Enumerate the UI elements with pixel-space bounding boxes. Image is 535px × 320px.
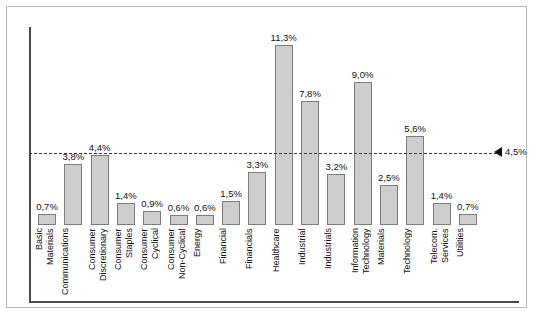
bar-slot: 9,0% [350, 19, 376, 225]
bar-slot: 3,2% [323, 19, 349, 225]
bar-slot: 2,5% [376, 19, 402, 225]
x-axis-label-slot: Utilities [455, 228, 481, 310]
x-axis-label: Financial [218, 228, 244, 310]
bar-slot: 11,3% [271, 19, 297, 225]
x-axis-label: Industrial [297, 228, 323, 310]
x-axis-label: Communications [60, 228, 86, 310]
bar-slot: 5,6% [402, 19, 428, 225]
x-axis-label: Energy [192, 228, 218, 310]
x-axis-label: Utilities [455, 228, 481, 310]
x-axis-label-slot: Consumer Discretionary [87, 228, 113, 310]
x-axis-label-slot: Telecom. Services [429, 228, 455, 310]
x-axis-label-slot: Consumer Staples [113, 228, 139, 310]
x-axis-label-slot: Communications [60, 228, 86, 310]
bar-value-label: 9,0% [352, 70, 374, 80]
bar[interactable] [301, 101, 319, 225]
bar-slot: 0,7% [34, 19, 60, 225]
bar[interactable] [117, 203, 135, 225]
bar-slot: 3,3% [244, 19, 270, 225]
bars-container: 0,7%3,8%4,4%1,4%0,9%0,6%0,6%1,5%3,3%11,3… [29, 19, 519, 225]
bar[interactable] [406, 136, 424, 225]
x-axis-label-slot: Consumer Cyclical [139, 228, 165, 310]
bar-value-label: 11,3% [271, 33, 297, 43]
reference-line-marker: 4,5% [494, 146, 527, 157]
bar-slot: 1,4% [113, 19, 139, 225]
x-axis-labels: Basic MaterialsCommunicationsConsumer Di… [29, 228, 519, 310]
bar[interactable] [91, 155, 109, 225]
x-axis-label: Consumer Non-Cyclical [166, 228, 192, 310]
bar-value-label: 1,4% [431, 191, 453, 201]
bar[interactable] [64, 164, 82, 225]
x-axis-label-slot: Information Technology [350, 228, 376, 310]
bar[interactable] [433, 203, 451, 225]
bar[interactable] [327, 174, 345, 225]
x-axis-label-slot: Industrials [323, 228, 349, 310]
x-axis-label: Consumer Cyclical [139, 228, 165, 310]
bar-value-label: 0,6% [194, 203, 216, 213]
x-axis-label: Industrials [323, 228, 349, 310]
bar-slot: 4,4% [87, 19, 113, 225]
x-axis-label-slot: Consumer Non-Cyclical [166, 228, 192, 310]
bar[interactable] [380, 185, 398, 225]
bar-slot: 3,8% [60, 19, 86, 225]
bar-value-label: 0,7% [457, 202, 479, 212]
x-axis-label-slot: Basic Materials [34, 228, 60, 310]
bar-slot: 1,5% [218, 19, 244, 225]
bar-slot: 0,7% [455, 19, 481, 225]
x-axis-label: Telecom. Services [429, 228, 455, 310]
reference-line-label: 4,5% [505, 146, 527, 157]
x-axis-label: Financials [244, 228, 270, 310]
x-axis-label: Healthcare [271, 228, 297, 310]
x-axis-label-slot: Industrial [297, 228, 323, 310]
bar-value-label: 3,3% [247, 160, 269, 170]
bar[interactable] [248, 172, 266, 225]
bar-slot: 0,6% [192, 19, 218, 225]
bar[interactable] [222, 201, 240, 225]
bar[interactable] [459, 214, 477, 225]
bar-slot: 0,6% [166, 19, 192, 225]
chart-frame: 0,7%3,8%4,4%1,4%0,9%0,6%0,6%1,5%3,3%11,3… [6, 6, 527, 308]
bar-slot: 0,9% [139, 19, 165, 225]
x-axis-label: Consumer Discretionary [87, 228, 113, 310]
bar-value-label: 1,4% [115, 191, 137, 201]
bar[interactable] [143, 211, 161, 225]
x-axis-label-slot: Healthcare [271, 228, 297, 310]
x-axis-label: Consumer Staples [113, 228, 139, 310]
bar-slot: 7,8% [297, 19, 323, 225]
x-axis-label: Materials [376, 228, 402, 310]
x-axis-label: Information Technology [350, 228, 376, 310]
bar-value-label: 2,5% [378, 173, 400, 183]
bar-value-label: 0,6% [168, 203, 190, 213]
reference-line [29, 153, 497, 154]
x-axis-label-slot: Financial [218, 228, 244, 310]
bar-value-label: 0,9% [141, 199, 163, 209]
x-axis-label-slot: Financials [244, 228, 270, 310]
x-axis-label-slot: Technology [402, 228, 428, 310]
x-axis-label: Technology [402, 228, 428, 310]
bar[interactable] [275, 45, 293, 225]
bar[interactable] [38, 214, 56, 225]
bar[interactable] [196, 215, 214, 225]
x-axis-label-slot: Materials [376, 228, 402, 310]
bar-value-label: 7,8% [299, 89, 321, 99]
bar-value-label: 1,5% [220, 189, 242, 199]
bar[interactable] [170, 215, 188, 225]
left-triangle-icon [494, 147, 502, 157]
bar-slot: 1,4% [429, 19, 455, 225]
bar-value-label: 4,4% [89, 143, 111, 153]
bar-value-label: 3,2% [325, 162, 347, 172]
x-axis-label: Basic Materials [34, 228, 60, 310]
bar-value-label: 0,7% [36, 202, 58, 212]
bar-value-label: 5,6% [404, 124, 426, 134]
x-axis-label-slot: Energy [192, 228, 218, 310]
